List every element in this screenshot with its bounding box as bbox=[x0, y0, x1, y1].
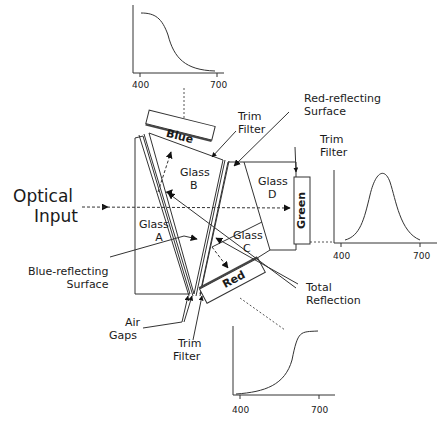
blue-reflecting-label: Blue-reflectingSurface bbox=[28, 265, 108, 291]
green-chart-tick-max: 700 bbox=[413, 251, 430, 261]
glass-b-label-line2: B bbox=[180, 179, 198, 192]
air-gaps-line2: Gaps bbox=[109, 329, 137, 342]
glass-d-label: GlassD bbox=[258, 175, 288, 201]
total-reflection-line2: Reflection bbox=[306, 294, 361, 307]
trim-filter-right-line1: Trim bbox=[320, 133, 343, 146]
glass-c-label-line2: C bbox=[233, 242, 251, 255]
optical-input-label-line2: Input bbox=[34, 207, 78, 226]
trim-filter-bottom-line2: Filter bbox=[173, 350, 200, 363]
red-reflecting-line2: Surface bbox=[304, 105, 346, 118]
prism-diagram: Optical Input Blue Red Green GlassA Glas… bbox=[0, 0, 446, 423]
red-reflecting-label: Red-reflectingSurface bbox=[304, 92, 381, 118]
trim-filter-bottom-line1: Trim bbox=[173, 337, 201, 350]
glass-c-label: GlassC bbox=[233, 229, 263, 255]
red-chart-tick-min: 400 bbox=[232, 405, 249, 415]
glass-c-label-line1: Glass bbox=[233, 229, 263, 242]
blue-spectrum-chart bbox=[133, 5, 224, 77]
blue-chart-tick-max: 700 bbox=[210, 80, 227, 90]
blue-chart-tick-min: 400 bbox=[132, 80, 149, 90]
air-gaps-line1: Air bbox=[109, 316, 140, 329]
glass-b-label-line1: Glass bbox=[180, 166, 210, 179]
trim-filter-top-line2: Filter bbox=[238, 123, 265, 136]
total-reflection-label: TotalReflection bbox=[306, 281, 361, 307]
air-gaps-label: AirGaps bbox=[109, 316, 140, 342]
trim-filter-right-label: TrimFilter bbox=[320, 133, 347, 159]
blue-reflecting-line1: Blue-reflecting bbox=[28, 265, 108, 278]
total-reflection-line1: Total bbox=[306, 281, 332, 294]
glass-a-label-line2: A bbox=[145, 231, 163, 244]
red-spectrum-chart bbox=[233, 326, 335, 399]
trim-filter-top-line1: Trim bbox=[238, 110, 261, 123]
green-spectrum-chart bbox=[334, 170, 437, 247]
glass-a-label-line1: Glass bbox=[139, 218, 169, 231]
trim-filter-bottom-label: TrimFilter bbox=[173, 337, 201, 363]
red-reflecting-line1: Red-reflecting bbox=[304, 92, 381, 105]
green-chart-tick-min: 400 bbox=[333, 251, 350, 261]
glass-a-label: GlassA bbox=[139, 218, 169, 244]
glass-b-label: GlassB bbox=[180, 166, 210, 192]
blue-reflecting-line2: Surface bbox=[29, 278, 109, 291]
trim-filter-right-line2: Filter bbox=[320, 146, 347, 159]
glass-d-label-line2: D bbox=[258, 188, 276, 201]
glass-d-label-line1: Glass bbox=[258, 175, 288, 188]
green-filter-label: Green bbox=[295, 192, 308, 229]
red-chart-tick-max: 700 bbox=[311, 405, 328, 415]
trim-filter-top-label: TrimFilter bbox=[238, 110, 265, 136]
optical-input-label-line1: Optical bbox=[13, 187, 73, 206]
